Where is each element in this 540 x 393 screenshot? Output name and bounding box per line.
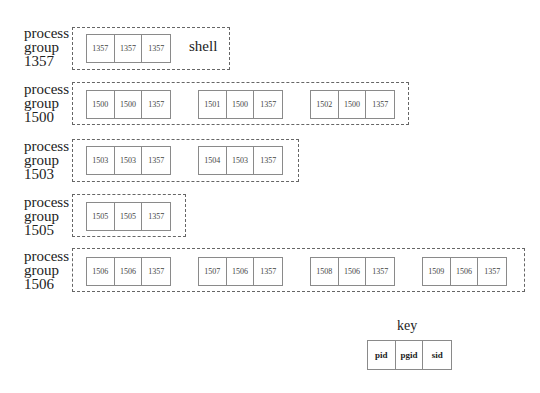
group-label-line: process: [24, 139, 69, 153]
sid-cell: 1357: [142, 35, 170, 62]
group-label-1505: process group 1505: [24, 195, 69, 237]
key-pgid: pgid: [396, 341, 424, 369]
sid-cell: 1357: [366, 258, 394, 285]
sid-cell: 1357: [254, 147, 282, 174]
sid-cell: 1357: [254, 91, 282, 118]
key-pid: pid: [368, 341, 396, 369]
group-label-1500: process group 1500: [24, 82, 69, 124]
pid-cell: 1357: [87, 35, 115, 62]
process-record: 1357 1357 1357: [86, 34, 171, 63]
pgid-cell: 1500: [227, 91, 255, 118]
process-record: 1507 1506 1357: [198, 257, 283, 286]
pgid-cell: 1503: [227, 147, 255, 174]
sid-cell: 1357: [142, 147, 170, 174]
process-record: 1501 1500 1357: [198, 90, 283, 119]
pid-cell: 1500: [87, 91, 115, 118]
pgid-cell: 1506: [339, 258, 367, 285]
process-record: 1505 1505 1357: [86, 202, 171, 231]
pid-cell: 1503: [87, 147, 115, 174]
group-label-line: process: [24, 26, 69, 40]
group-label-line: group: [24, 96, 69, 110]
group-label-line: group: [24, 209, 69, 223]
key-sid: sid: [423, 341, 451, 369]
group-label-line: 1503: [24, 167, 69, 181]
pgid-cell: 1500: [339, 91, 367, 118]
pgid-cell: 1500: [115, 91, 143, 118]
key-title: key: [397, 318, 417, 334]
pgid-cell: 1357: [115, 35, 143, 62]
group-label-1357: process group 1357: [24, 26, 69, 68]
group-label-line: group: [24, 153, 69, 167]
sid-cell: 1357: [142, 203, 170, 230]
process-record: 1508 1506 1357: [310, 257, 395, 286]
pid-cell: 1504: [199, 147, 227, 174]
process-record: 1506 1506 1357: [86, 257, 171, 286]
process-record: 1503 1503 1357: [86, 146, 171, 175]
pgid-cell: 1506: [227, 258, 255, 285]
pid-cell: 1509: [423, 258, 451, 285]
pid-cell: 1501: [199, 91, 227, 118]
group-label-line: process: [24, 195, 69, 209]
sid-cell: 1357: [254, 258, 282, 285]
process-record: 1504 1503 1357: [198, 146, 283, 175]
group-label-line: group: [24, 40, 69, 54]
group-label-line: 1505: [24, 223, 69, 237]
group-label-line: 1506: [24, 277, 69, 291]
sid-cell: 1357: [142, 258, 170, 285]
pid-cell: 1508: [311, 258, 339, 285]
pgid-cell: 1506: [451, 258, 479, 285]
group-label-line: group: [24, 263, 69, 277]
group-label-1503: process group 1503: [24, 139, 69, 181]
group-label-line: process: [24, 249, 69, 263]
pid-cell: 1505: [87, 203, 115, 230]
process-record: 1500 1500 1357: [86, 90, 171, 119]
shell-annotation: shell: [189, 38, 217, 55]
pgid-cell: 1503: [115, 147, 143, 174]
sid-cell: 1357: [366, 91, 394, 118]
sid-cell: 1357: [142, 91, 170, 118]
process-record: 1509 1506 1357: [422, 257, 507, 286]
pgid-cell: 1505: [115, 203, 143, 230]
group-label-1506: process group 1506: [24, 249, 69, 291]
key-legend: pid pgid sid: [367, 340, 452, 370]
pgid-cell: 1506: [115, 258, 143, 285]
pid-cell: 1506: [87, 258, 115, 285]
pid-cell: 1502: [311, 91, 339, 118]
group-label-line: 1500: [24, 110, 69, 124]
pid-cell: 1507: [199, 258, 227, 285]
process-record: 1502 1500 1357: [310, 90, 395, 119]
group-label-line: 1357: [24, 54, 69, 68]
group-label-line: process: [24, 82, 69, 96]
sid-cell: 1357: [478, 258, 506, 285]
